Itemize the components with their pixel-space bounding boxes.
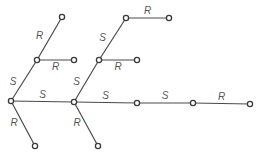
edge-label-G-J: R xyxy=(114,61,121,72)
node-D xyxy=(71,57,76,62)
edge-A-F xyxy=(11,101,74,102)
node-I xyxy=(166,15,171,20)
node-M xyxy=(190,100,195,105)
edge-label-M-N: R xyxy=(218,91,225,102)
node-L xyxy=(134,100,139,105)
edge-label-F-K: R xyxy=(73,117,80,128)
node-F xyxy=(71,99,76,104)
edge-label-A-E: R xyxy=(10,117,17,128)
node-B xyxy=(34,57,39,62)
edge-M-N xyxy=(193,103,250,104)
node-E xyxy=(32,143,37,148)
edge-label-A-F: S xyxy=(39,89,46,100)
node-N xyxy=(247,101,252,106)
edge-label-F-L: S xyxy=(102,90,109,101)
edge-F-L xyxy=(74,102,137,103)
node-G xyxy=(96,57,101,62)
node-J xyxy=(134,57,139,62)
node-H xyxy=(123,15,128,20)
node-A xyxy=(8,98,13,103)
edge-label-B-C: R xyxy=(36,30,43,41)
edge-label-B-D: R xyxy=(52,61,59,72)
node-K xyxy=(95,143,100,148)
edge-label-L-M: S xyxy=(162,90,169,101)
edge-label-F-G: S xyxy=(73,76,80,87)
node-C xyxy=(59,14,64,19)
edge-label-A-B: S xyxy=(10,76,17,87)
edge-label-H-I: R xyxy=(144,5,151,16)
tree-diagram: SRRRSSSRRRSSR xyxy=(0,0,262,161)
edge-label-G-H: S xyxy=(99,32,106,43)
